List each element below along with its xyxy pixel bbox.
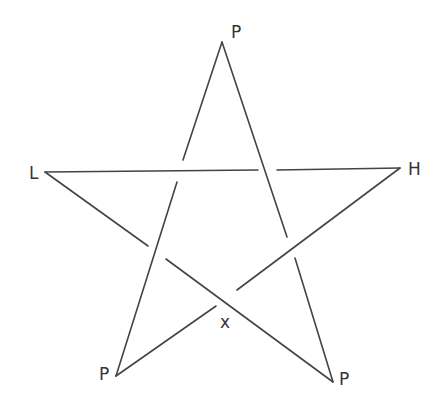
label-bottom-right: P (339, 369, 349, 389)
label-bottom-left: P (99, 364, 109, 384)
label-left: L (29, 163, 39, 183)
label-right: H (408, 159, 421, 179)
edge-left-to-bottom-right (45, 172, 333, 382)
edge-left-to-right (45, 168, 400, 172)
edge-right-to-bottom-left (116, 168, 400, 376)
edge-top-to-bottom-right (222, 42, 333, 382)
label-top: P (231, 22, 241, 42)
knot-diagram: P L H x P P (0, 0, 441, 400)
edge-top-to-bottom-left (116, 42, 222, 376)
label-center-bottom: x (220, 312, 230, 332)
